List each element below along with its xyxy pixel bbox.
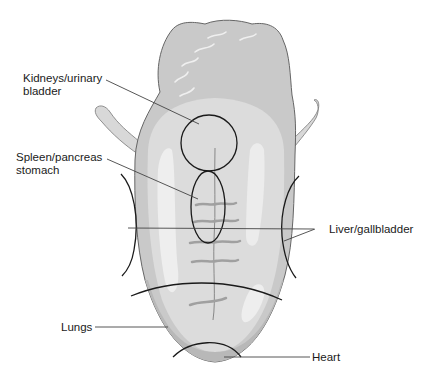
label-lungs: Lungs [61, 321, 92, 334]
label-heart: Heart [312, 351, 340, 364]
label-spleen: Spleen/pancreas stomach [16, 151, 102, 177]
zone-liver-left [121, 174, 136, 276]
left-duct [95, 106, 140, 154]
label-kidneys: Kidneys/urinary bladder [23, 72, 102, 98]
label-kidneys-line1: Kidneys/urinary [23, 72, 102, 85]
label-liver: Liver/gallbladder [329, 223, 413, 236]
label-spleen-line1: Spleen/pancreas [16, 151, 102, 164]
label-kidneys-line2: bladder [23, 85, 102, 98]
tongue-body [135, 20, 296, 362]
label-spleen-line2: stomach [16, 164, 102, 177]
